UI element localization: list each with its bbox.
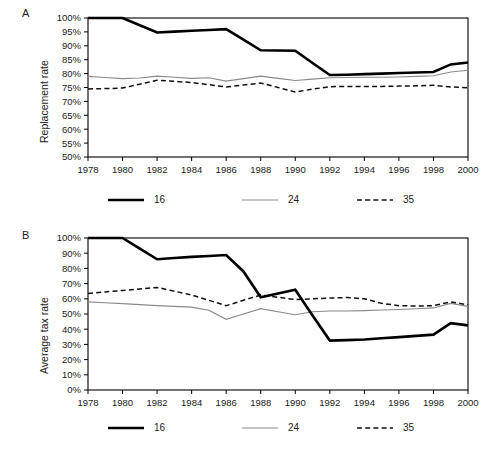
panel-a: A Replacement rate 50%55%60%65%70%75%80%… [0, 0, 494, 225]
x-tick-label: 2000 [457, 164, 478, 175]
y-tick-label: 0% [67, 384, 81, 395]
y-tick-label: 90% [62, 40, 82, 51]
legend-swatch-16-icon [106, 422, 146, 434]
legend-swatch-16-icon [106, 194, 146, 206]
legend-label-24: 24 [288, 422, 299, 434]
y-tick-label: 55% [62, 138, 82, 149]
panel-b-legend: 16 24 35 [0, 418, 494, 440]
y-tick-label: 65% [62, 110, 82, 121]
y-tick-label: 20% [62, 354, 82, 365]
panel-a-plot: 50%55%60%65%70%75%80%85%90%95%100%197819… [0, 0, 494, 190]
x-tick-label: 2000 [457, 397, 478, 408]
x-tick-label: 1982 [147, 164, 168, 175]
legend-item-24-b: 24 [240, 418, 299, 438]
x-tick-label: 1978 [77, 164, 98, 175]
series-line-35 [88, 80, 468, 92]
legend-item-24: 24 [240, 190, 299, 210]
x-tick-label: 1994 [354, 164, 375, 175]
legend-label-35: 35 [403, 194, 414, 206]
legend-swatch-35-icon [355, 194, 395, 206]
x-tick-label: 1978 [77, 397, 98, 408]
legend-item-35: 35 [355, 190, 414, 210]
y-tick-label: 80% [62, 68, 82, 79]
x-tick-label: 1998 [423, 164, 444, 175]
panel-b-plot: 0%10%20%30%40%50%60%70%80%90%100%1978198… [0, 222, 494, 418]
legend-item-35-b: 35 [355, 418, 414, 438]
y-tick-label: 80% [62, 263, 82, 274]
series-line-24 [88, 302, 468, 319]
legend-label-16: 16 [154, 194, 165, 206]
legend-label-35: 35 [403, 422, 414, 434]
x-tick-label: 1980 [112, 397, 133, 408]
x-tick-label: 1990 [285, 164, 306, 175]
x-tick-label: 1988 [250, 397, 271, 408]
y-tick-label: 30% [62, 339, 82, 350]
x-tick-label: 1980 [112, 164, 133, 175]
x-tick-label: 1996 [388, 164, 409, 175]
x-tick-label: 1998 [423, 397, 444, 408]
legend-item-16: 16 [106, 190, 165, 210]
y-tick-label: 70% [62, 96, 82, 107]
x-tick-label: 1992 [319, 164, 340, 175]
x-tick-label: 1984 [181, 397, 202, 408]
y-tick-label: 50% [62, 151, 82, 162]
legend-swatch-24-icon [240, 422, 280, 434]
x-tick-label: 1990 [285, 397, 306, 408]
x-tick-label: 1994 [354, 397, 375, 408]
x-tick-label: 1984 [181, 164, 202, 175]
y-tick-label: 40% [62, 324, 82, 335]
x-tick-label: 1986 [216, 164, 237, 175]
legend-item-16-b: 16 [106, 418, 165, 438]
figure-container: A Replacement rate 50%55%60%65%70%75%80%… [0, 0, 494, 450]
y-tick-label: 90% [62, 248, 82, 259]
x-tick-label: 1986 [216, 397, 237, 408]
y-tick-label: 10% [62, 369, 82, 380]
series-line-35 [88, 287, 468, 306]
y-tick-label: 100% [57, 12, 82, 23]
x-tick-label: 1992 [319, 397, 340, 408]
x-tick-label: 1996 [388, 397, 409, 408]
panel-b: B Average tax rate 0%10%20%30%40%50%60%7… [0, 222, 494, 450]
legend-swatch-35-icon [355, 422, 395, 434]
x-tick-label: 1988 [250, 164, 271, 175]
y-tick-label: 95% [62, 26, 82, 37]
y-tick-label: 70% [62, 278, 82, 289]
x-tick-label: 1982 [147, 397, 168, 408]
legend-label-16: 16 [154, 422, 165, 434]
y-tick-label: 60% [62, 124, 82, 135]
y-tick-label: 85% [62, 54, 82, 65]
y-tick-label: 75% [62, 82, 82, 93]
legend-label-24: 24 [288, 194, 299, 206]
legend-swatch-24-icon [240, 194, 280, 206]
series-line-16 [88, 238, 468, 341]
y-tick-label: 100% [57, 232, 82, 243]
panel-a-legend: 16 24 35 [0, 190, 494, 212]
y-tick-label: 50% [62, 308, 82, 319]
y-tick-label: 60% [62, 293, 82, 304]
series-line-16 [88, 18, 468, 75]
